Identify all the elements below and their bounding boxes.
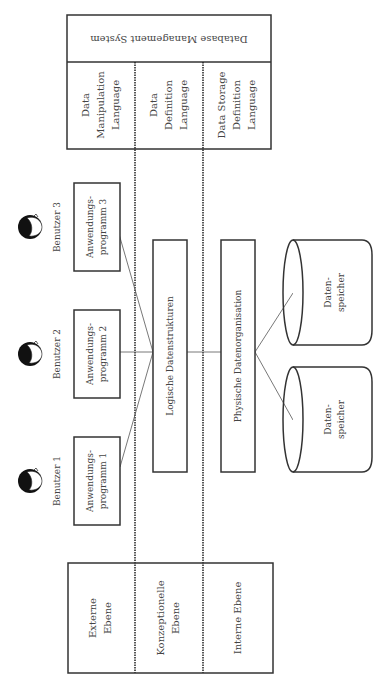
physical-label: Physische Datenorganisation xyxy=(233,289,243,422)
physical-organisation-box: Physische Datenorganisation xyxy=(221,240,255,472)
language-label-line: Definition xyxy=(231,79,242,129)
level-label-line: Externe xyxy=(87,598,98,638)
language-label-line: Data xyxy=(80,93,91,117)
application-program-label-line: Anwendungs- xyxy=(85,196,95,259)
level-label-line: Interne Ebene xyxy=(232,582,243,655)
language-label-line: Language xyxy=(178,80,189,130)
language-label: Data StorageDefinitionLanguage xyxy=(216,71,257,138)
language-label-line: Manipulation xyxy=(95,71,106,139)
data-storage-label-line: Daten- xyxy=(323,277,333,307)
logical-structures-box: Logische Datenstrukturen xyxy=(153,240,187,472)
application-program-box xyxy=(74,310,120,398)
levels-box: ExterneEbene KonzeptionelleEbene Interne… xyxy=(68,563,273,673)
connector-program1-logical xyxy=(120,352,153,467)
architecture-diagram: Database Management System DataManipulat… xyxy=(0,0,383,691)
connectors xyxy=(119,234,293,467)
storage: Daten-speicherDaten-speicher xyxy=(283,240,372,472)
application-program-label-line: programm 1 xyxy=(98,453,108,510)
user-3: Anwendungs-programm 3Benutzer 3 xyxy=(18,183,120,271)
data-storage-label-line: speicher xyxy=(336,272,346,312)
language-label-line: Data Storage xyxy=(216,71,227,138)
data-storage-cylinder: Daten-speicher xyxy=(283,240,372,345)
level-label-line: Ebene xyxy=(170,602,181,634)
language-label-line: Definition xyxy=(163,79,174,129)
language-label-line: Language xyxy=(246,80,257,130)
connector-program3-logical xyxy=(119,234,153,352)
level-konzeptionell: KonzeptionelleEbene xyxy=(155,580,181,655)
application-program-label-line: programm 3 xyxy=(98,198,108,255)
language-dsdl: Data StorageDefinitionLanguage xyxy=(216,71,257,138)
application-program-box xyxy=(74,183,120,271)
user-2: Anwendungs-programm 2Benutzer 2 xyxy=(18,310,120,398)
users: Anwendungs-programm 1Benutzer 1Anwendung… xyxy=(18,183,120,525)
level-label: ExterneEbene xyxy=(87,598,113,638)
language-label-line: Language xyxy=(110,80,121,130)
person-icon xyxy=(18,214,42,239)
connector-physical-storage1 xyxy=(255,293,293,352)
level-extern: ExterneEbene xyxy=(87,598,113,638)
data-storage-cylinder: Daten-speicher xyxy=(283,367,372,472)
dbms-box: Database Management System DataManipulat… xyxy=(67,15,271,149)
level-intern: Interne Ebene xyxy=(232,582,243,655)
application-program-box xyxy=(74,437,120,525)
data-storage-label-line: speicher xyxy=(336,399,346,439)
person-icon xyxy=(18,468,42,493)
level-label: KonzeptionelleEbene xyxy=(155,580,181,655)
logical-label: Logische Datenstrukturen xyxy=(165,296,175,416)
user-label: Benutzer 1 xyxy=(52,456,62,506)
connector-physical-storage2 xyxy=(255,352,293,420)
dbms-title: Database Management System xyxy=(90,34,248,45)
data-storage-label-line: Daten- xyxy=(323,404,333,434)
language-label-line: Data xyxy=(148,93,159,117)
application-program-label-line: Anwendungs- xyxy=(85,450,95,513)
level-label-line: Konzeptionelle xyxy=(155,580,166,655)
application-program-label-line: programm 2 xyxy=(98,326,108,383)
user-label: Benutzer 3 xyxy=(52,202,62,252)
user-1: Anwendungs-programm 1Benutzer 1 xyxy=(18,437,120,525)
level-label: Interne Ebene xyxy=(232,582,243,655)
level-label-line: Ebene xyxy=(102,602,113,634)
person-icon xyxy=(18,341,42,366)
user-label: Benutzer 2 xyxy=(52,329,62,379)
application-program-label-line: Anwendungs- xyxy=(85,323,95,386)
